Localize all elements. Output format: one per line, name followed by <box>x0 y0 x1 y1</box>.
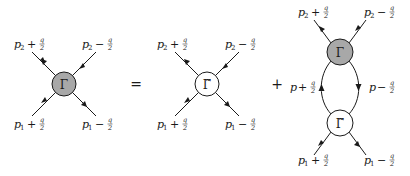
svg-text:p: p <box>369 81 376 94</box>
label-top-left: p 2 + q 2 <box>298 4 329 20</box>
svg-text:−: − <box>238 38 247 51</box>
svg-text:2: 2 <box>250 124 255 132</box>
svg-text:−: − <box>377 154 386 167</box>
svg-text:q: q <box>311 79 315 87</box>
arrow-up-icon <box>319 84 325 91</box>
svg-text:1: 1 <box>88 124 92 132</box>
svg-text:2: 2 <box>88 44 92 52</box>
svg-text:+: + <box>311 154 320 167</box>
label-internal-right: p − q 2 <box>369 79 395 95</box>
svg-text:2: 2 <box>389 160 394 168</box>
panel-rhs-irreducible-vertex: Γ̃ p 2 + q 2 p 2 − q 2 p 1 + q 2 p 1 <box>157 36 256 132</box>
svg-text:−: − <box>377 6 386 19</box>
svg-text:−: − <box>95 118 104 131</box>
leg-top-left <box>314 20 331 43</box>
arrow-outgoing-icon <box>354 141 360 147</box>
svg-text:2: 2 <box>310 87 315 95</box>
vertex-symbol: Γ̃ <box>203 78 211 92</box>
svg-text:2: 2 <box>389 12 394 20</box>
svg-text:q: q <box>390 152 394 160</box>
svg-text:q: q <box>108 116 112 124</box>
svg-text:2: 2 <box>20 44 24 52</box>
svg-text:2: 2 <box>304 12 308 20</box>
svg-text:1: 1 <box>231 124 235 132</box>
equals-sign: = <box>130 76 142 92</box>
svg-text:q: q <box>390 4 394 12</box>
svg-text:2: 2 <box>163 44 167 52</box>
svg-text:2: 2 <box>39 44 44 52</box>
svg-text:2: 2 <box>323 160 328 168</box>
svg-text:2: 2 <box>250 44 255 52</box>
svg-text:q: q <box>40 36 44 44</box>
svg-text:q: q <box>324 152 328 160</box>
arrow-outgoing-icon <box>319 26 325 32</box>
label-bottom-left: p 1 + q 2 <box>298 152 329 168</box>
svg-text:2: 2 <box>370 12 374 20</box>
svg-text:q: q <box>108 36 112 44</box>
label-bottom-right: p 1 − q 2 <box>364 152 395 168</box>
svg-text:2: 2 <box>182 124 187 132</box>
label-bottom-left: p 1 + q 2 <box>157 116 188 132</box>
leg-top-right <box>349 20 366 43</box>
label-internal-left: p + q 2 <box>290 79 316 95</box>
label-bottom-right: p 1 − q 2 <box>82 116 113 132</box>
svg-text:1: 1 <box>163 124 167 132</box>
label-bottom-left: p 1 + q 2 <box>14 116 45 132</box>
label-top-left: p 2 + q 2 <box>157 36 188 52</box>
vertex-symbol: Γ <box>336 46 344 60</box>
svg-text:+: + <box>298 81 307 94</box>
svg-text:q: q <box>251 36 255 44</box>
svg-text:1: 1 <box>370 160 374 168</box>
svg-text:−: − <box>238 118 247 131</box>
svg-text:−: − <box>377 81 386 94</box>
svg-text:p: p <box>290 81 297 94</box>
vertex-symbol: Γ <box>60 78 68 92</box>
panel-rhs-ladder: Γ Γ̃ p 2 + q 2 p 2 − q 2 p + q 2 <box>290 4 395 168</box>
label-top-right: p 2 − q 2 <box>364 4 395 20</box>
svg-text:q: q <box>183 36 187 44</box>
svg-text:q: q <box>251 116 255 124</box>
leg-top-right <box>215 52 239 76</box>
leg-bottom-left <box>175 92 199 116</box>
vertex-equation-diagram: Γ p 2 + q 2 p 2 − q 2 p 1 + q 2 p 1 <box>0 0 410 176</box>
svg-text:2: 2 <box>231 44 235 52</box>
svg-text:1: 1 <box>20 124 24 132</box>
svg-text:+: + <box>311 6 320 19</box>
arrow-down-icon <box>356 84 362 91</box>
svg-text:q: q <box>324 4 328 12</box>
svg-text:q: q <box>40 116 44 124</box>
svg-text:2: 2 <box>39 124 44 132</box>
svg-text:1: 1 <box>304 160 308 168</box>
leg-top-right <box>72 52 96 76</box>
label-top-right: p 2 − q 2 <box>82 36 113 52</box>
svg-text:2: 2 <box>107 44 112 52</box>
label-top-left: p 2 + q 2 <box>14 36 45 52</box>
svg-text:+: + <box>27 118 36 131</box>
svg-text:2: 2 <box>107 124 112 132</box>
panel-lhs-full-vertex: Γ p 2 + q 2 p 2 − q 2 p 1 + q 2 p 1 <box>14 36 113 132</box>
svg-text:2: 2 <box>389 87 394 95</box>
svg-text:+: + <box>170 38 179 51</box>
leg-bottom-left <box>32 92 56 116</box>
vertex-symbol: Γ̃ <box>336 117 344 131</box>
label-bottom-right: p 1 − q 2 <box>225 116 256 132</box>
svg-text:q: q <box>183 116 187 124</box>
svg-text:+: + <box>170 118 179 131</box>
svg-text:q: q <box>390 79 394 87</box>
svg-text:2: 2 <box>182 44 187 52</box>
svg-text:−: − <box>95 38 104 51</box>
plus-sign: + <box>271 76 283 92</box>
svg-text:+: + <box>27 38 36 51</box>
label-top-right: p 2 − q 2 <box>225 36 256 52</box>
svg-text:2: 2 <box>323 12 328 20</box>
